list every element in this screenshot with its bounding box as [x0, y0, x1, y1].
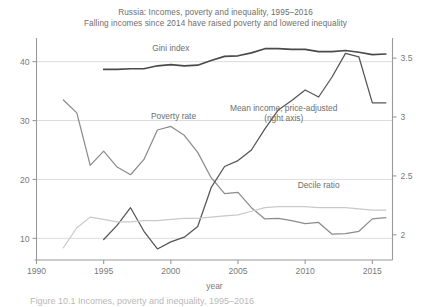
- y-tick-label-left: 40: [20, 57, 30, 67]
- y-tick-label-left: 20: [20, 175, 30, 185]
- series-line-decile-ratio: [63, 207, 385, 248]
- x-tick-label: 2005: [228, 266, 247, 276]
- x-tick-label: 1995: [94, 266, 113, 276]
- figure-container: Russia: Incomes, poverty and inequality,…: [0, 0, 431, 307]
- series-label-decile-ratio: Decile ratio: [298, 180, 340, 190]
- y-tick-label-right: 2: [401, 230, 406, 240]
- series-line-mean-income-price-adjusted: [104, 53, 386, 249]
- y-tick-label-left: 10: [20, 234, 30, 244]
- figure-caption: Figure 10.1 Incomes, poverty and inequal…: [30, 296, 430, 306]
- chart-svg: 1020304022.533.5199019952000200520102015…: [0, 0, 431, 307]
- y-tick-label-right: 2.5: [401, 171, 413, 181]
- y-tick-label-right: 3.5: [401, 53, 413, 63]
- x-tick-label: 2000: [161, 266, 180, 276]
- x-tick-label: 1990: [27, 266, 46, 276]
- series-label-poverty-rate: Poverty rate: [151, 111, 196, 121]
- series-label-mean-income-price-adjusted: Mean income, price-adjusted: [230, 103, 338, 113]
- y-tick-label-right: 3: [401, 112, 406, 122]
- series-line-gini-index: [104, 49, 386, 70]
- x-axis-label: year: [206, 281, 223, 291]
- y-tick-label-left: 30: [20, 116, 30, 126]
- x-tick-label: 2010: [296, 266, 315, 276]
- x-tick-label: 2015: [363, 266, 382, 276]
- series-label-gini-index: Gini index: [152, 43, 190, 53]
- series-label-right-axis-note: (right axis): [264, 113, 303, 123]
